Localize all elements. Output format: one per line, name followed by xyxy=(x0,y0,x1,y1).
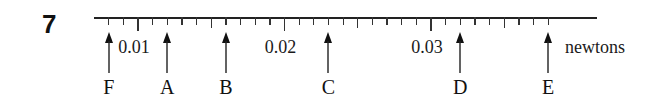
scale-tick xyxy=(460,17,461,25)
scale-tick xyxy=(548,17,549,25)
scale-value-label: 0.02 xyxy=(265,37,297,57)
scale-tick xyxy=(284,17,285,31)
unit-label: newtons xyxy=(565,37,625,57)
scale-tick xyxy=(504,17,505,28)
up-arrow-icon xyxy=(220,32,232,73)
scale-tick xyxy=(430,17,431,31)
scale-tick xyxy=(328,17,329,25)
scale-tick xyxy=(225,17,226,25)
scale-tick xyxy=(255,17,256,25)
scale-value-label: 0.03 xyxy=(411,37,443,57)
marker-label-d: D xyxy=(453,76,467,98)
marker-label-c: C xyxy=(322,76,335,98)
scale-tick xyxy=(386,17,387,25)
marker-label-e: E xyxy=(542,76,554,98)
scale-tick xyxy=(299,17,300,25)
scale-tick xyxy=(108,17,109,25)
scale-tick xyxy=(167,17,168,25)
scale-axis-line xyxy=(94,17,597,19)
scale-tick xyxy=(196,17,197,25)
up-arrow-icon xyxy=(103,32,115,73)
scale-tick xyxy=(240,17,241,25)
scale-tick xyxy=(313,17,314,25)
number-line-scale: 0.010.020.03 newtons FABCDE xyxy=(0,0,667,107)
scale-tick xyxy=(269,17,270,25)
scale-value-label: 0.01 xyxy=(118,37,150,57)
scale-tick xyxy=(401,17,402,25)
scale-tick xyxy=(343,17,344,25)
up-arrow-icon xyxy=(322,32,334,73)
scale-tick xyxy=(357,17,358,28)
up-arrow-icon xyxy=(161,32,173,73)
scale-tick xyxy=(445,17,446,25)
scale-tick xyxy=(416,17,417,25)
up-arrow-icon xyxy=(454,32,466,73)
marker-label-a: A xyxy=(160,76,174,98)
scale-tick xyxy=(474,17,475,25)
scale-tick xyxy=(518,17,519,25)
up-arrow-icon xyxy=(542,32,554,73)
scale-tick xyxy=(137,17,138,31)
scale-tick xyxy=(152,17,153,25)
scale-tick xyxy=(372,17,373,25)
scale-tick xyxy=(123,17,124,25)
marker-label-f: F xyxy=(103,76,114,98)
scale-tick xyxy=(211,17,212,28)
scale-tick xyxy=(533,17,534,25)
scale-tick xyxy=(181,17,182,25)
marker-label-b: B xyxy=(219,76,232,98)
scale-tick xyxy=(489,17,490,25)
